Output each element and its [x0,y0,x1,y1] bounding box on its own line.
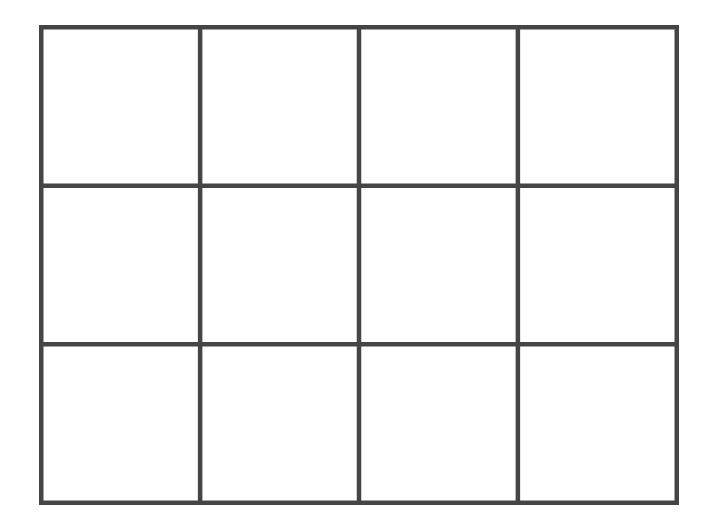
grid-cell-r3-c4 [518,344,677,503]
grid-cell-r2-c2 [200,186,359,345]
grid-cell-r3-c3 [359,344,518,503]
grid-cell-r2-c1 [41,186,200,345]
grid-cell-r2-c4 [518,186,677,345]
grid-lines [39,25,679,505]
grid-cell-r1-c1 [41,27,200,186]
grid-cell-r1-c2 [200,27,359,186]
grid-diagram [39,25,679,505]
grid-cell-r1-c4 [518,27,677,186]
grid-cell-r1-c3 [359,27,518,186]
grid-cell-r2-c3 [359,186,518,345]
grid-cell-r3-c2 [200,344,359,503]
grid-cell-r3-c1 [41,344,200,503]
